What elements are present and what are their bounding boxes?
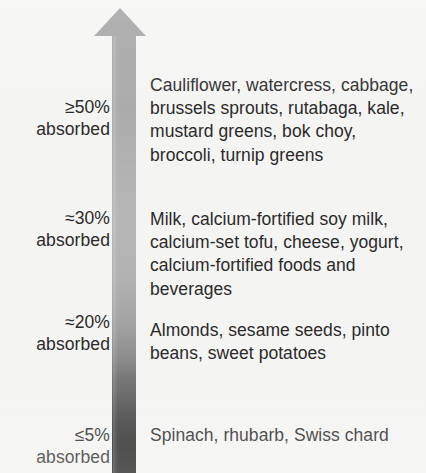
calcium-absorption-figure: ≥50% absorbed Cauliflower, watercress, c… xyxy=(0,0,426,473)
tier-percent: ≤5% xyxy=(0,424,110,446)
tier-label-5-percent: ≤5% absorbed xyxy=(0,424,110,468)
tier-foods-50-percent: Cauliflower, watercress, cabbage, brusse… xyxy=(150,74,418,167)
tier-percent: ≥50% xyxy=(0,96,110,118)
tier-percent: ≈20% xyxy=(0,311,110,333)
tier-absorbed-word: absorbed xyxy=(0,118,110,140)
tier-label-50-percent: ≥50% absorbed xyxy=(0,96,110,140)
tier-label-30-percent: ≈30% absorbed xyxy=(0,207,110,251)
tier-foods-30-percent: Milk, calcium-fortified soy milk, calciu… xyxy=(150,208,418,301)
tier-foods-5-percent: Spinach, rhubarb, Swiss chard xyxy=(150,424,418,447)
tier-absorbed-word: absorbed xyxy=(0,446,110,468)
tier-percent: ≈30% xyxy=(0,207,110,229)
tier-label-20-percent: ≈20% absorbed xyxy=(0,311,110,355)
tier-absorbed-word: absorbed xyxy=(0,229,110,251)
tier-absorbed-word: absorbed xyxy=(0,333,110,355)
tier-foods-20-percent: Almonds, sesame seeds, pinto beans, swee… xyxy=(150,319,418,365)
